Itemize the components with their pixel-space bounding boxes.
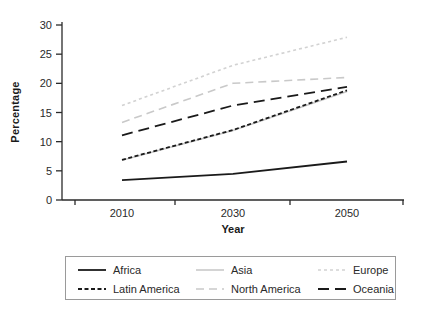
legend-item-asia: Asia: [196, 264, 318, 276]
y-tick-label: 5: [46, 165, 52, 177]
legend-line-sample: [78, 267, 106, 273]
legend-line-sample: [318, 286, 346, 292]
series-line-africa: [122, 162, 347, 181]
legend-line-sample: [196, 267, 224, 273]
y-tick-label: 0: [46, 194, 52, 206]
legend-line-sample: [318, 267, 346, 273]
y-axis-title: Percentage: [9, 62, 21, 162]
x-tick-label: 2010: [110, 207, 134, 219]
y-tick-label: 30: [40, 19, 52, 31]
legend-line-sample: [78, 286, 106, 292]
x-tick-label: 2030: [221, 207, 245, 219]
y-tick-label: 25: [40, 48, 52, 60]
legend-item-africa: Africa: [78, 264, 196, 276]
legend-item-europe: Europe: [318, 264, 395, 276]
legend-label: Asia: [231, 264, 252, 276]
series-line-latin-america: [122, 90, 347, 160]
legend-label: North America: [231, 283, 301, 295]
line-chart-canvas: 051015202530201020302050: [0, 0, 424, 250]
chart-figure: 051015202530201020302050 Percentage Year…: [0, 0, 424, 318]
legend-label: Oceania: [353, 283, 394, 295]
legend-item-north-america: North America: [196, 283, 318, 295]
y-tick-label: 20: [40, 77, 52, 89]
legend-label: Latin America: [113, 283, 180, 295]
x-tick-label: 2050: [335, 207, 359, 219]
y-tick-label: 15: [40, 107, 52, 119]
legend-item-oceania: Oceania: [318, 283, 395, 295]
legend-label: Europe: [353, 264, 388, 276]
series-line-oceania: [122, 87, 347, 136]
legend-item-latin-america: Latin America: [78, 283, 196, 295]
series-line-north-america: [122, 78, 347, 123]
series-line-europe: [122, 37, 347, 105]
x-axis-title: Year: [62, 223, 404, 235]
legend-line-sample: [196, 286, 224, 292]
y-tick-label: 10: [40, 136, 52, 148]
legend: AfricaAsiaEuropeLatin AmericaNorth Ameri…: [65, 256, 396, 300]
legend-label: Africa: [113, 264, 141, 276]
